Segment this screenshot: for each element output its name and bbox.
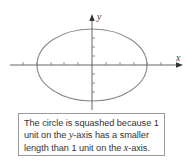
y-axis-arrow-icon [89, 14, 94, 21]
x-axis-label: x [175, 52, 181, 63]
caption-line-2-post: -axis has a smaller [73, 130, 149, 140]
caption-line-3: length than 1 unit on the x-axis. [24, 142, 160, 154]
caption-line-1: The circle is squashed because 1 [24, 117, 160, 129]
coordinate-graph: y x [0, 0, 186, 112]
caption-line-2-pre: unit on the [24, 130, 69, 140]
caption-line-3-pre: length than 1 unit on the [24, 143, 124, 153]
caption-box: The circle is squashed because 1 unit on… [18, 113, 165, 156]
caption-line-2: unit on the y-axis has a smaller [24, 129, 160, 141]
y-axis-label: y [96, 11, 102, 22]
caption-line-3-post: -axis. [128, 143, 150, 153]
x-axis-arrow-icon [176, 62, 183, 67]
